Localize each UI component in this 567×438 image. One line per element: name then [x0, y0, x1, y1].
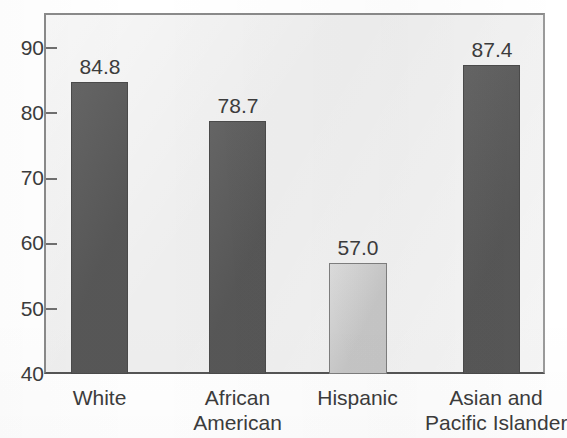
y-tick-label-50: 50: [21, 298, 44, 319]
y-tick-label-70: 70: [21, 167, 44, 188]
y-tick-label-90: 90: [21, 37, 44, 58]
bar-african-american: [209, 121, 266, 374]
category-label-asian-pacific-islander: Asian and Pacific Islander: [425, 385, 567, 435]
value-label-white: 84.8: [60, 56, 140, 77]
category-label-asian-pacific-islander-line2: Pacific Islander: [425, 410, 567, 435]
bar-white: [71, 82, 128, 374]
category-label-hispanic: Hispanic: [293, 385, 422, 410]
y-tick-label-60: 60: [21, 232, 44, 253]
y-tick-mark-90: [46, 47, 57, 49]
category-label-white: White: [35, 385, 164, 410]
category-label-hispanic-line1: Hispanic: [317, 386, 398, 409]
y-tick-mark-60: [46, 243, 57, 245]
y-tick-label-80: 80: [21, 102, 44, 123]
value-label-african-american: 78.7: [198, 95, 278, 116]
y-tick-mark-50: [46, 308, 57, 310]
y-tick-label-40: 40: [21, 363, 44, 384]
category-label-white-line1: White: [73, 386, 127, 409]
category-label-african-american-line2: American: [173, 410, 302, 435]
bar-asian-pacific-islander: [463, 65, 520, 374]
category-label-asian-pacific-islander-line1: Asian and: [449, 386, 542, 409]
category-label-african-american: African American: [173, 385, 302, 435]
value-label-asian-pacific-islander: 87.4: [452, 39, 532, 60]
category-label-african-american-line1: African: [205, 386, 270, 409]
bar-hispanic: [329, 263, 387, 374]
y-tick-mark-70: [46, 178, 57, 180]
bar-chart: 90 80 70 60 50 40 84.8 78.7 57.0 87.4 Wh…: [0, 0, 567, 438]
y-tick-mark-80: [46, 112, 57, 114]
value-label-hispanic: 57.0: [318, 237, 398, 258]
